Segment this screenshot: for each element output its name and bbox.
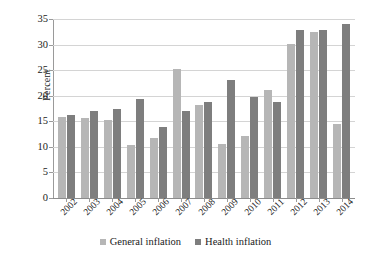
chart-legend: General inflationHealth inflation (0, 236, 371, 247)
y-axis-tick-label: 10 (38, 142, 49, 153)
y-axis-tick-label: 15 (38, 116, 49, 127)
legend-item[interactable]: Health inflation (195, 236, 271, 247)
legend-label: General inflation (110, 236, 181, 247)
x-axis-tick-label: 2012 (289, 197, 309, 217)
bar (173, 69, 181, 198)
bar-group (330, 19, 353, 198)
bar (310, 32, 318, 198)
x-axis-tick-label: 2007 (174, 197, 194, 217)
x-axis-tick-labels: 2002200320042005200620072008200920102011… (53, 198, 355, 234)
x-axis-tick-label-cell: 2013 (307, 198, 330, 234)
bar (150, 138, 158, 198)
bar (113, 109, 121, 198)
x-axis-tick-label: 2013 (312, 197, 332, 217)
bar (182, 111, 190, 198)
legend-item[interactable]: General inflation (100, 236, 181, 247)
x-axis-tick-label: 2010 (243, 197, 263, 217)
legend-swatch-icon (195, 239, 201, 245)
x-axis-tick-label: 2002 (60, 197, 80, 217)
bar (159, 127, 167, 198)
x-axis-tick-label-cell: 2012 (284, 198, 307, 234)
bar (195, 105, 203, 198)
bar (342, 24, 350, 198)
bar-group (55, 19, 78, 198)
bar-group (307, 19, 330, 198)
bar (227, 80, 235, 198)
bar (204, 102, 212, 198)
bar-group (147, 19, 170, 198)
y-axis-tick-label: 35 (38, 14, 49, 25)
bar (250, 97, 258, 198)
x-axis-tick-label-cell: 2007 (170, 198, 193, 234)
x-axis-tick-label: 2011 (266, 197, 286, 217)
bar (264, 90, 272, 198)
x-axis-tick-label-cell: 2014 (330, 198, 353, 234)
legend-label: Health inflation (205, 236, 271, 247)
bar (58, 117, 66, 198)
x-axis-tick-label-cell: 2011 (261, 198, 284, 234)
bar (273, 102, 281, 198)
x-axis-tick-label-cell: 2002 (55, 198, 78, 234)
bar (81, 118, 89, 198)
bar (241, 136, 249, 198)
bar-group (101, 19, 124, 198)
y-axis-tick-label: 0 (43, 193, 48, 204)
bar (287, 44, 295, 198)
x-axis-tick-label-cell: 2010 (238, 198, 261, 234)
y-axis-tick-label: 20 (38, 90, 49, 101)
bar (67, 115, 75, 198)
x-axis-tick-label-cell: 2009 (215, 198, 238, 234)
x-axis-tick-label: 2004 (106, 197, 126, 217)
bar-group (170, 19, 193, 198)
bar-chart: Percent 05101520253035 20022003200420052… (0, 0, 371, 255)
x-axis-tick-label: 2014 (335, 197, 355, 217)
y-axis-tick-label: 30 (38, 39, 49, 50)
bar (136, 99, 144, 198)
x-axis-tick-label-cell: 2003 (78, 198, 101, 234)
x-axis-tick-label-cell: 2005 (124, 198, 147, 234)
bar-group (193, 19, 216, 198)
bar (218, 144, 226, 198)
bar (296, 30, 304, 198)
x-axis-tick-label: 2009 (220, 197, 240, 217)
bar-groups (53, 19, 355, 198)
x-axis-tick-label-cell: 2004 (101, 198, 124, 234)
plot-area: 05101520253035 (53, 19, 355, 198)
x-axis-tick-label: 2005 (129, 197, 149, 217)
x-axis-tick-label: 2003 (83, 197, 103, 217)
bar-group (238, 19, 261, 198)
bar-group (78, 19, 101, 198)
bar-group (284, 19, 307, 198)
x-axis-tick-label-cell: 2006 (147, 198, 170, 234)
bar (319, 30, 327, 198)
bar (90, 111, 98, 198)
y-axis-tick-label: 5 (43, 167, 48, 178)
bar-group (124, 19, 147, 198)
bar (104, 120, 112, 198)
legend-swatch-icon (100, 239, 106, 245)
y-axis-tick-label: 25 (38, 65, 49, 76)
bar-group (215, 19, 238, 198)
x-axis-tick-label: 2008 (197, 197, 217, 217)
x-axis-tick-label-cell: 2008 (193, 198, 216, 234)
bar-group (261, 19, 284, 198)
bar (333, 124, 341, 198)
bar (127, 145, 135, 198)
x-axis-tick-label: 2006 (151, 197, 171, 217)
